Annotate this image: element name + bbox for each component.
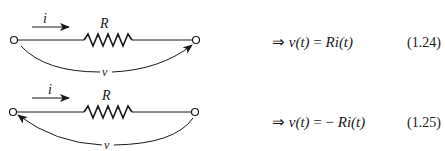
voltage-label: v <box>104 139 109 151</box>
resistor-icon <box>84 34 132 46</box>
voltage-label: v <box>102 66 107 78</box>
resistor-icon <box>84 106 132 118</box>
resistor-label: R <box>100 17 109 31</box>
terminal-right-icon <box>193 37 200 44</box>
equation-number: (1.25) <box>407 116 441 130</box>
equation-1-24: ⇒ v(t) = Ri(t) <box>272 35 353 50</box>
equation-1-25: ⇒ v(t) = − Ri(t) <box>272 115 365 130</box>
implies-arrow: ⇒ <box>272 114 285 130</box>
equation-lhs: v(t) <box>289 114 310 130</box>
terminal-left-icon <box>11 37 18 44</box>
current-label: i <box>43 12 47 26</box>
current-label: i <box>48 83 52 97</box>
equals-sign: = <box>313 114 321 130</box>
equation-lhs: v(t) <box>289 34 310 50</box>
equation-number: (1.24) <box>407 36 441 50</box>
terminal-left-icon <box>10 109 17 116</box>
resistor-label: R <box>102 89 111 103</box>
equals-sign: = <box>313 34 321 50</box>
equation-rhs: Ri(t) <box>338 114 366 130</box>
circuit-diagrams <box>0 0 445 151</box>
minus-sign: − <box>326 114 334 130</box>
terminal-right-icon <box>192 109 199 116</box>
implies-arrow: ⇒ <box>272 34 285 50</box>
equation-rhs: Ri(t) <box>326 34 354 50</box>
